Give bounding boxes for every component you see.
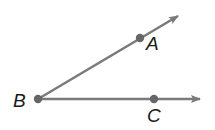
point-b (34, 95, 42, 103)
label-c: C (147, 105, 161, 126)
label-b: B (13, 90, 26, 111)
ray-ba (38, 16, 178, 99)
angle-diagram: B A C (0, 0, 215, 130)
point-c (150, 95, 158, 103)
point-a (136, 34, 144, 42)
label-a: A (145, 33, 159, 54)
